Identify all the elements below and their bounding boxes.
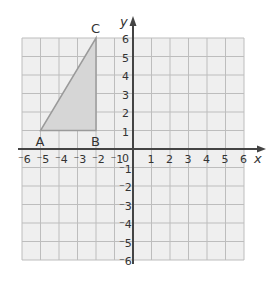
y-tick-label: 2 (122, 107, 129, 120)
origin-label: 0 (122, 152, 129, 165)
y-tick-label: 1 (122, 126, 129, 139)
y-tick-label: ⁻5 (119, 237, 132, 250)
y-tick-label: 3 (122, 89, 129, 102)
y-tick-label: 4 (122, 70, 129, 83)
vertex-label-a: A (36, 134, 45, 149)
y-axis-label: y (119, 14, 128, 29)
x-tick-label: ⁻4 (55, 153, 68, 166)
x-tick-label: 2 (166, 153, 173, 166)
x-tick-label: ⁻2 (92, 153, 105, 166)
y-tick-label: ⁻6 (119, 255, 132, 268)
x-tick-label: ⁻6 (18, 153, 31, 166)
x-tick-label: 6 (240, 153, 247, 166)
x-tick-label: ⁻5 (37, 153, 50, 166)
y-tick-label: ⁻4 (119, 218, 132, 231)
x-tick-label: ⁻3 (74, 153, 87, 166)
x-tick-label: 1 (148, 153, 155, 166)
coordinate-plane: ABC xy ⁻6⁻5⁻4⁻3⁻2⁻1123456654321⁻1⁻2⁻3⁻4⁻… (0, 0, 273, 284)
x-axis-label: x (253, 151, 262, 166)
x-tick-label: 4 (203, 153, 210, 166)
y-axis-arrow-icon (130, 16, 137, 26)
vertex-label-c: C (91, 21, 100, 36)
y-tick-label: ⁻3 (119, 200, 132, 213)
y-tick-label: 5 (122, 52, 129, 65)
vertex-label-b: B (91, 134, 100, 149)
x-tick-label: 3 (185, 153, 192, 166)
y-tick-label: 6 (122, 33, 129, 46)
y-tick-label: ⁻2 (119, 181, 132, 194)
x-tick-label: 5 (222, 153, 229, 166)
